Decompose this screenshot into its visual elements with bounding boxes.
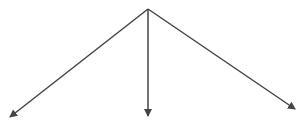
branching-arrows-diagram bbox=[0, 0, 297, 122]
arrow-right bbox=[148, 9, 295, 109]
arrows-canvas bbox=[0, 0, 297, 122]
arrow-left bbox=[10, 9, 148, 117]
